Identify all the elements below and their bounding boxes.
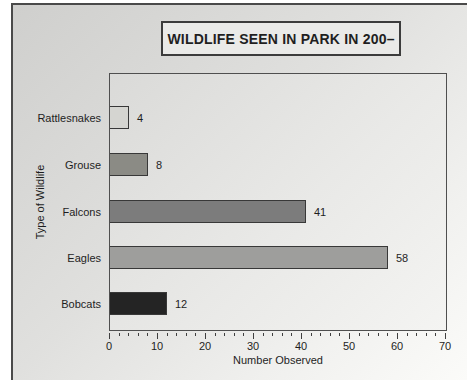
x-minor-tick	[128, 333, 129, 337]
x-minor-tick	[176, 333, 177, 337]
x-minor-tick	[215, 333, 216, 337]
x-minor-tick	[138, 333, 139, 337]
x-minor-tick	[387, 333, 388, 337]
screenshot-canvas: WILDLIFE SEEN IN PARK IN 200– Type of Wi…	[0, 0, 467, 380]
x-minor-tick	[263, 333, 264, 337]
x-tick-label: 0	[94, 340, 124, 352]
category-label: Grouse	[65, 159, 101, 171]
y-axis-title: Type of Wildlife	[34, 165, 46, 240]
value-label: 41	[314, 206, 326, 218]
chart-frame: WILDLIFE SEEN IN PARK IN 200– Type of Wi…	[11, 3, 467, 380]
x-tick-label: 20	[190, 340, 220, 352]
value-label: 12	[175, 298, 187, 310]
x-minor-tick	[330, 333, 331, 337]
x-minor-tick	[272, 333, 273, 337]
x-minor-tick	[368, 333, 369, 337]
bar-row: Falcons41	[110, 200, 446, 223]
plot-area: Rattlesnakes4Grouse8Falcons41Eagles58Bob…	[109, 73, 447, 331]
bar-bobcats	[110, 292, 167, 315]
value-label: 58	[396, 252, 408, 264]
x-tick-label: 60	[382, 340, 412, 352]
x-minor-tick	[359, 333, 360, 337]
x-minor-tick	[435, 333, 436, 337]
bar-grouse	[110, 153, 148, 176]
x-minor-tick	[311, 333, 312, 337]
x-minor-tick	[147, 333, 148, 337]
category-label: Bobcats	[61, 298, 101, 310]
x-minor-tick	[243, 333, 244, 337]
x-minor-tick	[378, 333, 379, 337]
x-tick-label: 70	[430, 340, 460, 352]
chart-title: WILDLIFE SEEN IN PARK IN 200–	[167, 31, 394, 47]
x-tick-label: 50	[334, 340, 364, 352]
bar-row: Rattlesnakes4	[110, 106, 446, 129]
x-minor-tick	[291, 333, 292, 337]
bar-row: Grouse8	[110, 153, 446, 176]
x-minor-tick	[339, 333, 340, 337]
x-minor-tick	[119, 333, 120, 337]
x-major-tick	[157, 333, 158, 339]
category-label: Rattlesnakes	[37, 112, 101, 124]
value-label: 4	[137, 112, 143, 124]
x-major-tick	[205, 333, 206, 339]
x-minor-tick	[416, 333, 417, 337]
x-minor-tick	[186, 333, 187, 337]
x-tick-label: 40	[286, 340, 316, 352]
value-label: 8	[156, 159, 162, 171]
x-minor-tick	[167, 333, 168, 337]
x-major-tick	[253, 333, 254, 339]
x-minor-tick	[320, 333, 321, 337]
bar-row: Eagles58	[110, 246, 446, 269]
x-minor-tick	[282, 333, 283, 337]
bar-eagles	[110, 246, 388, 269]
x-major-tick	[397, 333, 398, 339]
x-minor-tick	[195, 333, 196, 337]
bar-row: Bobcats12	[110, 292, 446, 315]
bar-falcons	[110, 200, 306, 223]
x-minor-tick	[426, 333, 427, 337]
x-minor-tick	[407, 333, 408, 337]
category-label: Eagles	[67, 252, 101, 264]
bar-rattlesnakes	[110, 106, 129, 129]
chart-title-box: WILDLIFE SEEN IN PARK IN 200–	[161, 21, 401, 56]
x-minor-tick	[224, 333, 225, 337]
x-axis-title: Number Observed	[109, 354, 447, 366]
x-major-tick	[301, 333, 302, 339]
x-major-tick	[445, 333, 446, 339]
x-minor-tick	[234, 333, 235, 337]
x-tick-label: 10	[142, 340, 172, 352]
x-major-tick	[109, 333, 110, 339]
x-major-tick	[349, 333, 350, 339]
category-label: Falcons	[62, 206, 101, 218]
x-tick-label: 30	[238, 340, 268, 352]
x-axis-ticks: 010203040506070	[109, 333, 447, 355]
